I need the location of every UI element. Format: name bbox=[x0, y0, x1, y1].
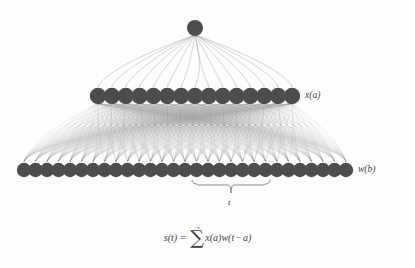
formula-lhs: s(t) bbox=[164, 233, 177, 243]
formula-equals: = bbox=[180, 233, 186, 243]
graph-node bbox=[339, 163, 353, 177]
figure-root: x(a) w(b) t s(t)= +∞ ∑ −∞ x(a)w(t−a) bbox=[0, 0, 415, 268]
edges-x-layer-to-w-layer bbox=[24, 103, 346, 161]
brace-label-t: t bbox=[228, 198, 231, 207]
output-layer-node bbox=[187, 20, 203, 36]
x-layer-label: x(a) bbox=[305, 91, 320, 101]
w-layer-label: w(b) bbox=[358, 165, 375, 175]
formula-term-w-open: w(t bbox=[221, 233, 234, 243]
formula-term-minus: − bbox=[236, 233, 242, 243]
convolution-formula: s(t)= +∞ ∑ −∞ x(a)w(t−a) bbox=[0, 226, 415, 250]
x-layer-nodes bbox=[90, 88, 300, 104]
formula-term-a-close: a) bbox=[243, 233, 251, 243]
summation-symbol: +∞ ∑ −∞ bbox=[190, 226, 204, 250]
edges-output-to-x-layer bbox=[98, 35, 292, 86]
brace-stroke bbox=[192, 180, 270, 193]
w-layer-nodes bbox=[17, 163, 353, 177]
graph-node bbox=[284, 88, 300, 104]
formula-term-x: x(a) bbox=[205, 233, 221, 243]
graph-node bbox=[187, 20, 203, 36]
window-brace-path bbox=[192, 180, 270, 193]
